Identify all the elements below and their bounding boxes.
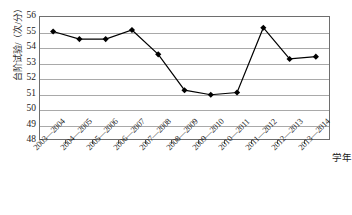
y-axis-tick-label: 53 — [27, 58, 37, 68]
x-axis-title: 学年 — [332, 150, 352, 164]
data-point-marker — [313, 54, 319, 60]
x-axis-tick-labels: 2003—20042004—20052005—20062006—20072007… — [0, 143, 351, 213]
y-axis-tick-label: 56 — [27, 11, 37, 21]
y-axis-tick-label: 52 — [27, 73, 37, 83]
y-axis-tick-label: 54 — [27, 42, 37, 52]
y-axis-tick-label: 50 — [27, 104, 37, 114]
y-axis-title-wrapper: 台阶试验/（次/分） — [2, 14, 16, 139]
data-point-marker — [234, 89, 240, 95]
y-axis-tick-label: 49 — [27, 120, 37, 130]
y-axis-tick-label: 55 — [27, 27, 37, 37]
data-point-marker — [208, 92, 214, 98]
data-point-marker — [50, 28, 56, 34]
series-line — [53, 28, 316, 95]
data-point-marker — [103, 36, 109, 42]
y-axis-tick-label: 51 — [27, 89, 37, 99]
data-point-marker — [76, 36, 82, 42]
